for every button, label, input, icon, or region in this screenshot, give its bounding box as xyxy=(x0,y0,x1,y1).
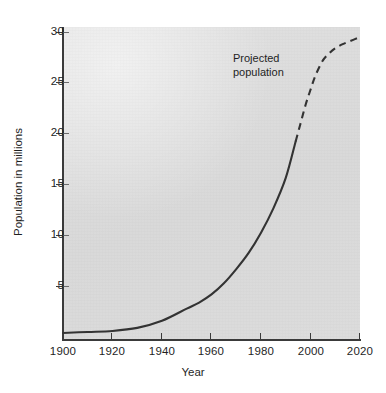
x-tick-label-1920: 1920 xyxy=(86,345,138,357)
y-tick-label-15: 15 xyxy=(30,178,64,190)
x-axis-line xyxy=(62,339,361,341)
annotation-line-2: population xyxy=(233,66,284,80)
x-tick-label-1960: 1960 xyxy=(185,345,237,357)
x-tick-label-2000: 2000 xyxy=(285,345,337,357)
x-tick-mark-1960 xyxy=(210,333,211,340)
y-tick-label-20: 20 xyxy=(30,127,64,139)
plot-area xyxy=(63,27,360,340)
population-growth-chart: 30 25 20 15 10 5 1900 1920 1940 1960 198… xyxy=(0,0,386,393)
x-tick-mark-2000 xyxy=(310,333,311,340)
annotation-line-1: Projected xyxy=(233,52,284,66)
x-tick-label-1900: 1900 xyxy=(37,345,89,357)
y-tick-label-30: 30 xyxy=(30,26,64,38)
x-tick-mark-2020 xyxy=(359,333,360,340)
plot-background-texture xyxy=(63,27,360,340)
annotation-projected-population: Projected population xyxy=(233,52,284,79)
x-axis-title: Year xyxy=(0,366,386,378)
y-tick-label-10: 10 xyxy=(30,229,64,241)
x-tick-mark-1940 xyxy=(161,333,162,340)
x-tick-mark-1900 xyxy=(62,333,63,340)
y-tick-label-5: 5 xyxy=(30,280,64,292)
x-tick-mark-1980 xyxy=(260,333,261,340)
x-tick-label-1940: 1940 xyxy=(136,345,188,357)
x-tick-label-2020: 2020 xyxy=(334,345,386,357)
x-tick-mark-1920 xyxy=(111,333,112,340)
y-tick-label-25: 25 xyxy=(30,76,64,88)
y-axis-title: Population in millions xyxy=(12,92,24,272)
x-tick-label-1980: 1980 xyxy=(235,345,287,357)
